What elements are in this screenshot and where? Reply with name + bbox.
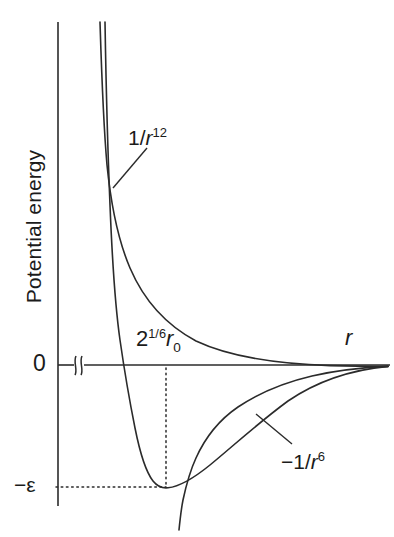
attractive-curve xyxy=(179,366,388,530)
repulsive-label-base: 1/ xyxy=(128,126,146,149)
repulsive-leader-line xyxy=(113,148,147,188)
repulsive-curve-label: 1/r12 xyxy=(128,126,167,148)
x-axis-label: r xyxy=(345,327,352,349)
lennard-jones-curve xyxy=(105,22,388,488)
attractive-leader-line xyxy=(256,414,292,444)
y-tick-label-epsilon: −ε xyxy=(14,474,36,495)
axis-break-icon xyxy=(75,356,82,375)
x-tick-label-rmin: 21/6r0 xyxy=(136,328,181,354)
rmin-exponent: 1/6 xyxy=(148,326,166,341)
attractive-curve-label: −1/r6 xyxy=(281,450,325,472)
attractive-label-variable: r xyxy=(311,450,318,473)
rmin-subscript: 0 xyxy=(173,340,181,355)
repulsive-curve xyxy=(100,22,388,366)
repulsive-label-variable: r xyxy=(146,126,153,149)
rmin-base: 2 xyxy=(136,326,148,351)
y-tick-label-zero: 0 xyxy=(33,352,46,375)
y-axis-label: Potential energy xyxy=(23,132,44,322)
attractive-label-exponent: 6 xyxy=(318,449,325,464)
attractive-label-sign: −1/ xyxy=(281,450,311,473)
plot-canvas xyxy=(0,0,394,537)
repulsive-label-exponent: 12 xyxy=(153,125,167,140)
lennard-jones-potential-figure: Potential energy 0 −ε r 21/6r0 1/r12 −1/… xyxy=(0,0,394,537)
